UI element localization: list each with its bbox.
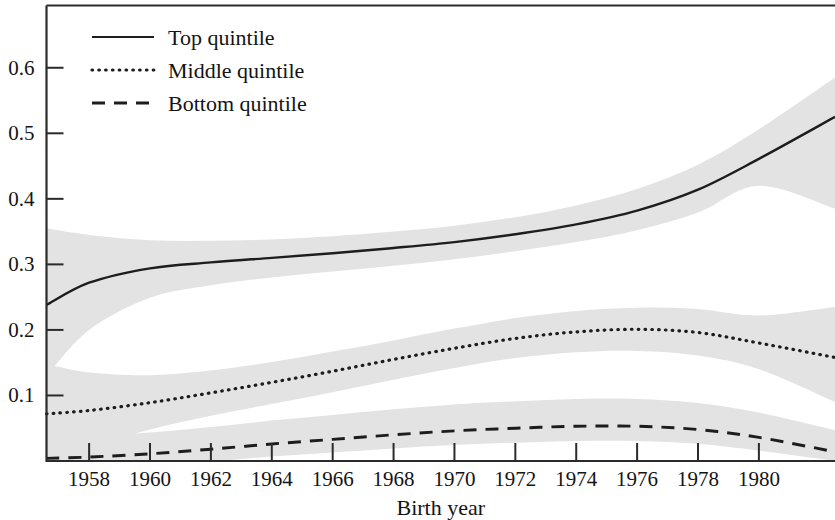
x-axis-tick-label: 1958 xyxy=(68,467,110,491)
x-axis-tick-label: 1960 xyxy=(129,467,171,491)
chart-figure: 0.10.20.30.40.50.6 195819601962196419661… xyxy=(0,0,835,520)
x-axis-tick-label: 1976 xyxy=(616,467,658,491)
x-axis-tick-label: 1964 xyxy=(251,467,294,491)
legend-label: Middle quintile xyxy=(168,58,304,83)
x-axis-tick-label: 1966 xyxy=(312,467,354,491)
legend-label: Bottom quintile xyxy=(168,91,307,116)
x-axis-tick-label: 1972 xyxy=(494,467,536,491)
chart-legend: Top quintileMiddle quintileBottom quinti… xyxy=(92,25,307,116)
x-axis-tick-label: 1980 xyxy=(738,467,780,491)
x-axis-tick-label: 1974 xyxy=(555,467,598,491)
x-axis-title: Birth year xyxy=(396,495,485,520)
x-axis-tick-label: 1970 xyxy=(433,467,475,491)
x-axis-tick-label: 1978 xyxy=(677,467,719,491)
y-axis-tick-label: 0.6 xyxy=(8,56,34,80)
y-axis-tick-label: 0.2 xyxy=(8,318,34,342)
x-axis-tick-label: 1968 xyxy=(373,467,415,491)
line-chart-svg: 0.10.20.30.40.50.6 195819601962196419661… xyxy=(0,0,835,520)
y-axis-tick-label: 0.5 xyxy=(8,121,34,145)
y-axis-tick-label: 0.4 xyxy=(8,187,35,211)
confidence-bands xyxy=(47,78,835,462)
x-axis-tick-label: 1962 xyxy=(190,467,232,491)
y-axis-tick-label: 0.1 xyxy=(8,383,34,407)
legend-label: Top quintile xyxy=(168,25,275,50)
y-axis-tick-label: 0.3 xyxy=(8,252,34,276)
